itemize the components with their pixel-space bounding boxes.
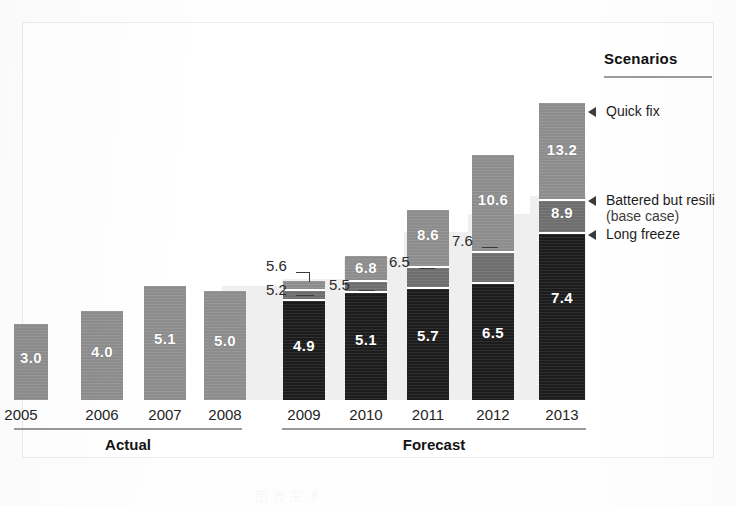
page-watermark: 图表来源 [255,486,515,504]
group-label-forecast: Forecast [282,436,586,453]
xtick-2006: 2006 [75,406,129,423]
bar-2011-segment-long-freeze [407,289,449,400]
callout-2009-base-case: 5.2 [266,281,287,298]
bar-2012-segment-long-freeze [472,284,514,400]
bar-2005[interactable]: 3.0 [14,324,48,400]
bar-2011-value-quick-fix: 8.6 [407,226,449,243]
xtick-2008: 2008 [198,406,252,423]
legend-title: Scenarios [604,50,736,67]
xtick-2009: 2009 [277,406,331,423]
legend-label-quick-fix: Quick fix [606,103,660,119]
callout-2012-base-case: 7.6 [452,232,473,249]
bar-2011-segment-base-case [407,268,449,287]
bar-2009-value-long-freeze: 4.9 [283,337,325,354]
bar-texture [472,284,514,400]
legend-label-base-case-line2: (base case) [606,208,679,224]
xtick-2012: 2012 [466,406,520,423]
bar-2010-value-long-freeze: 5.1 [345,331,387,348]
bar-2013-segment-long-freeze [539,234,585,400]
legend-label-long-freeze: Long freeze [606,226,680,242]
bar-2006[interactable]: 4.0 [81,311,123,400]
bar-2012-value-long-freeze: 6.5 [472,324,514,341]
xtick-2007: 2007 [138,406,192,423]
bar-2006-value: 4.0 [81,343,123,360]
bar-2009-segment-quick-fix [283,281,325,289]
bar-texture [539,234,585,400]
bar-2010-value-quick-fix: 6.8 [345,259,387,276]
chart-plot-area: 3.0 4.0 5.1 5.0 4.9 [0,0,736,506]
xtick-2005: 2005 [0,406,48,423]
bar-2008-value: 5.0 [204,332,246,349]
bar-2007-value: 5.1 [144,330,186,347]
group-label-actual: Actual [14,436,242,453]
legend-label-base-case: Battered but resili [606,192,715,208]
group-rule-actual [14,428,242,430]
bar-2007[interactable]: 5.1 [144,286,186,400]
bar-2012-value-quick-fix: 10.6 [472,191,514,208]
scanned-page: 3.0 4.0 5.1 5.0 4.9 [0,0,736,506]
bar-2013-value-long-freeze: 7.4 [539,289,585,306]
triangle-left-marker-icon [588,107,596,117]
triangle-left-marker-icon [588,196,596,206]
bar-2012[interactable]: 10.6 6.5 [472,155,514,400]
bar-texture [407,289,449,400]
leader-tick-2009-quick-fix [309,272,310,282]
legend-title-underline [604,76,712,78]
legend-entry-base-case[interactable]: Battered but resili (base case) [588,192,736,226]
bar-2009[interactable]: 4.9 [283,281,325,400]
bar-2012-segment-base-case [472,253,514,282]
xtick-2010: 2010 [339,406,393,423]
bar-2013-value-quick-fix: 13.2 [539,141,585,158]
legend-scenarios: Scenarios [604,50,736,67]
triangle-left-marker-icon [588,230,596,240]
bar-2010[interactable]: 6.8 5.1 [345,256,387,400]
legend-entry-long-freeze[interactable]: Long freeze [588,226,736,246]
callout-2009-quick-fix: 5.6 [266,257,287,274]
leader-2009-base-case [296,295,314,296]
bar-2011[interactable]: 8.6 5.7 [407,210,449,400]
bar-texture [407,268,449,287]
xtick-2013: 2013 [535,406,589,423]
bar-2008[interactable]: 5.0 [204,291,246,400]
bar-2013-value-base-case: 8.9 [539,204,585,221]
leader-2012-base-case [482,247,498,248]
leader-2011-base-case [419,268,435,269]
leader-2009-quick-fix [296,272,310,273]
bar-2011-value-long-freeze: 5.7 [407,327,449,344]
bar-2013[interactable]: 13.2 8.9 7.4 [539,103,585,400]
bar-texture [472,253,514,282]
bar-texture [283,281,325,289]
legend-entry-quick-fix[interactable]: Quick fix [588,103,736,123]
bar-2005-value: 3.0 [14,349,48,366]
group-rule-forecast [282,428,586,430]
callout-2010-base-case: 5.5 [329,276,350,293]
callout-2011-base-case: 6.5 [389,253,410,270]
leader-2010-base-case [359,290,375,291]
xtick-2011: 2011 [401,406,455,423]
